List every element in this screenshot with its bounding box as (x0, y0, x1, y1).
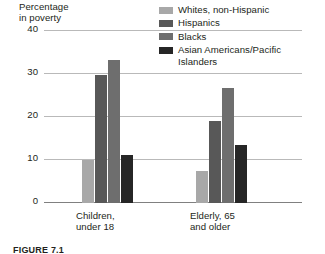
legend-item-label: Hispanics (178, 17, 220, 28)
legend-item-label: Whites, non-Hispanic (178, 4, 269, 15)
bar[interactable] (82, 160, 94, 203)
bar[interactable] (108, 60, 120, 203)
bar[interactable] (196, 171, 208, 203)
bar-group (196, 30, 247, 203)
y-tick-label: 40 (4, 24, 38, 34)
plot-area (44, 30, 302, 203)
bar[interactable] (121, 155, 133, 203)
legend-swatch-icon (159, 7, 173, 14)
bar[interactable] (235, 145, 247, 203)
bar-groups (44, 30, 302, 203)
bar-group (82, 30, 133, 203)
y-tick-label: 20 (4, 110, 38, 120)
bar[interactable] (222, 88, 234, 203)
y-axis-title: Percentage in poverty (19, 1, 69, 24)
x-axis-label-children: Children, under 18 (76, 210, 166, 233)
x-axis-label-elderly: Elderly, 65 and older (190, 210, 285, 233)
y-tick-label: 30 (4, 67, 38, 77)
legend-item: Whites, non-Hispanic (159, 4, 325, 15)
poverty-bar-chart-figure: Percentage in poverty Whites, non-Hispan… (0, 0, 325, 254)
y-tick-label: 10 (4, 153, 38, 163)
bar[interactable] (95, 75, 107, 203)
bar[interactable] (209, 121, 221, 203)
figure-caption: FIGURE 7.1 (13, 245, 64, 254)
y-tick-label: 0 (4, 196, 38, 206)
legend-swatch-icon (159, 20, 173, 27)
legend-item: Hispanics (159, 17, 325, 28)
